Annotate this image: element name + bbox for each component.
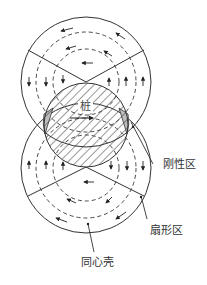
bottom-fan-arrows [56, 182, 126, 222]
rigid-zone-label: 刚性区 [163, 159, 196, 170]
leader-rigid-zone [131, 122, 153, 164]
leader-concentric-shell [88, 224, 94, 252]
pile-soil-flow-diagram [0, 0, 207, 285]
pile-cross-section [44, 83, 128, 167]
pile-label: 桩 [78, 101, 93, 113]
top-fan-boundary-left [28, 50, 86, 82]
bottom-fan-boundary-right [86, 167, 144, 196]
leader-fan-zone [141, 196, 147, 219]
top-fan-boundary-right [86, 50, 144, 82]
concentric-shell-label: 同心壳 [81, 257, 114, 268]
bottom-fan-boundary-left [28, 167, 86, 196]
fan-zone-label: 扇形区 [150, 225, 183, 236]
top-fan-arrows [61, 28, 125, 63]
